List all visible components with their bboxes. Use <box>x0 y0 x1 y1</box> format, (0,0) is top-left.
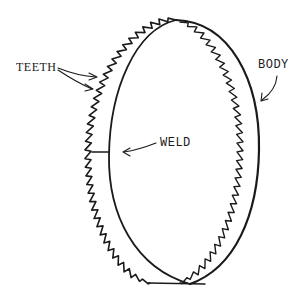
weld-label: WELD <box>160 137 191 149</box>
blade-body-front-edge <box>109 20 190 284</box>
blade-teeth-right-edge <box>180 22 243 284</box>
body-arrow <box>262 76 277 100</box>
teeth-arrow-lower <box>58 70 92 89</box>
body-label: BODY <box>258 59 289 71</box>
weld-arrow <box>124 143 156 152</box>
teeth-arrow-upper <box>58 68 96 77</box>
teeth-label: TEETH <box>16 61 57 73</box>
band-saw-blade-diagram <box>0 0 303 294</box>
blade-bottom-edge <box>148 283 205 284</box>
